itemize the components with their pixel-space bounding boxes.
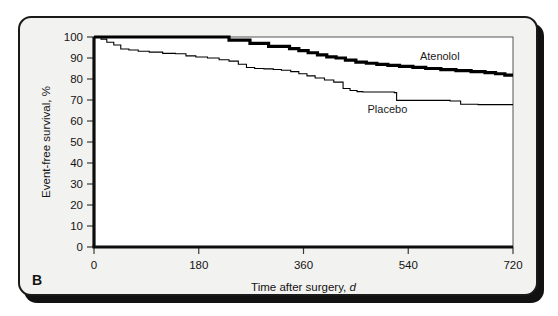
series-annotation-atenolol: Atenolol bbox=[420, 50, 460, 62]
x-tick-label: 0 bbox=[91, 259, 97, 271]
x-tick-label: 540 bbox=[399, 259, 418, 271]
figure-panel: 0102030405060708090100 0180360540720 Ate… bbox=[18, 16, 538, 296]
x-tick-label: 360 bbox=[294, 259, 313, 271]
x-axis-title: Time after surgery, d bbox=[251, 281, 356, 293]
y-tick-labels: 0102030405060708090100 bbox=[64, 31, 83, 253]
y-tick-label: 50 bbox=[70, 136, 83, 148]
figure-root: 0102030405060708090100 0180360540720 Ate… bbox=[0, 0, 558, 316]
y-tick-label: 20 bbox=[70, 199, 83, 211]
x-tick-labels: 0180360540720 bbox=[91, 259, 523, 271]
x-tick-label: 180 bbox=[189, 259, 208, 271]
series-annotation-placebo: Placebo bbox=[368, 103, 408, 115]
y-tick-label: 100 bbox=[64, 31, 83, 43]
y-tick-label: 0 bbox=[77, 241, 83, 253]
y-tick-label: 30 bbox=[70, 178, 83, 190]
x-tick-label: 720 bbox=[503, 259, 522, 271]
y-tick-label: 10 bbox=[70, 220, 83, 232]
y-tick-label: 70 bbox=[70, 94, 83, 106]
y-axis-title: Event-free survival, % bbox=[40, 86, 52, 198]
y-tick-label: 40 bbox=[70, 157, 83, 169]
y-tick-label: 80 bbox=[70, 73, 83, 85]
y-tick-label: 60 bbox=[70, 115, 83, 127]
survival-chart: 0102030405060708090100 0180360540720 Ate… bbox=[20, 18, 540, 298]
y-tick-label: 90 bbox=[70, 52, 83, 64]
panel-letter: B bbox=[32, 272, 43, 288]
